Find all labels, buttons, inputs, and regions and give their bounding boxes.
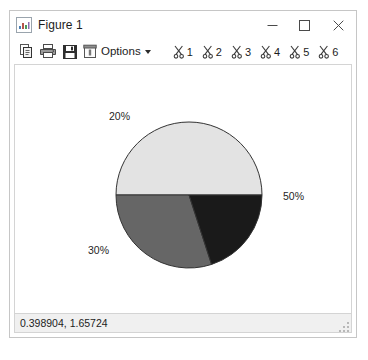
- chevron-down-icon: [145, 50, 151, 54]
- scissors-icon: [202, 45, 214, 59]
- datatip-3[interactable]: 3: [229, 41, 258, 63]
- datatip-label: 1: [187, 46, 198, 58]
- minimize-button[interactable]: [256, 11, 288, 39]
- window-title: Figure 1: [38, 18, 83, 32]
- maximize-button[interactable]: [288, 11, 320, 39]
- copy-button[interactable]: [15, 41, 37, 63]
- pie-svg: [15, 65, 352, 297]
- pie-slice-50[interactable]: [116, 122, 262, 195]
- options-icon: [83, 44, 97, 59]
- save-button[interactable]: [59, 41, 81, 63]
- pie-slice-label: 30%: [88, 244, 109, 256]
- datatip-6[interactable]: 6: [316, 41, 345, 63]
- pie-slice-label: 50%: [283, 190, 304, 202]
- datatip-1[interactable]: 1: [171, 41, 200, 63]
- datatip-label: 6: [332, 46, 343, 58]
- figure-window: Figure 1: [9, 10, 357, 338]
- datatip-group: 1 2: [171, 41, 346, 63]
- datatip-label: 2: [216, 46, 227, 58]
- figure-canvas[interactable]: 50%30%20%: [14, 64, 352, 313]
- status-bar: 0.398904, 1.65724: [14, 313, 352, 333]
- options-button[interactable]: Options: [81, 41, 155, 63]
- datatip-5[interactable]: 5: [287, 41, 316, 63]
- screen: Figure 1: [0, 0, 368, 360]
- datatip-4[interactable]: 4: [258, 41, 287, 63]
- pie-slice-label: 20%: [109, 110, 130, 122]
- datatip-label: 5: [303, 46, 314, 58]
- scissors-icon: [318, 45, 330, 59]
- datatip-2[interactable]: 2: [200, 41, 229, 63]
- title-bar: Figure 1: [10, 11, 356, 39]
- cursor-coordinates: 0.398904, 1.65724: [20, 317, 108, 329]
- options-label: Options: [101, 45, 141, 58]
- scissors-icon: [260, 45, 272, 59]
- close-button[interactable]: [320, 11, 356, 39]
- scissors-icon: [289, 45, 301, 59]
- print-button[interactable]: [37, 41, 59, 63]
- toolbar: Options 1: [10, 39, 356, 64]
- figure-icon: [16, 17, 32, 33]
- scissors-icon: [173, 45, 185, 59]
- scissors-icon: [231, 45, 243, 59]
- pie-chart[interactable]: 50%30%20%: [15, 65, 351, 313]
- resize-grip[interactable]: [338, 319, 350, 331]
- datatip-label: 3: [245, 46, 256, 58]
- datatip-label: 4: [274, 46, 285, 58]
- window-controls: [256, 11, 356, 39]
